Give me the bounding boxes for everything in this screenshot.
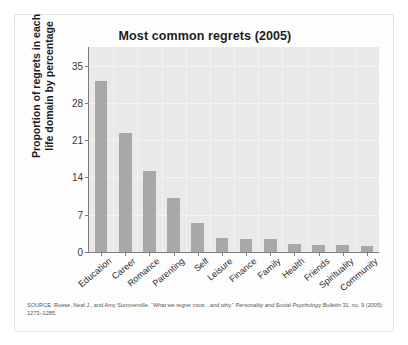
- x-tick-mark-self: [198, 253, 199, 256]
- bar-friends: [312, 245, 325, 252]
- x-axis-line: [88, 252, 379, 253]
- bar-education: [95, 81, 108, 252]
- y-axis-title: Proportion of regrets in each life domai…: [30, 0, 56, 176]
- y-tick-label-0: 0: [61, 247, 83, 258]
- x-tick-mark-parenting: [174, 253, 175, 256]
- chart-card: Most common regrets (2005) 0714212835 Pr…: [14, 14, 394, 332]
- bar-health: [288, 244, 301, 252]
- chart-figure: Most common regrets (2005) 0714212835 Pr…: [0, 0, 408, 345]
- bar-spirituality: [336, 245, 349, 252]
- chart-title: Most common regrets (2005): [15, 29, 395, 43]
- y-tick-mark-35: [85, 66, 88, 67]
- x-tick-label-family: Family: [256, 256, 283, 281]
- y-tick-label-21: 21: [61, 135, 83, 146]
- bar-career: [119, 133, 132, 252]
- y-tick-mark-28: [85, 103, 88, 104]
- x-tick-mark-health: [294, 253, 295, 256]
- x-tick-mark-career: [125, 253, 126, 256]
- source-note: SOURCE: Roese, Neal J., and Amy Summervi…: [27, 301, 385, 317]
- y-axis-title-line-2: life domain by percentage: [43, 0, 56, 176]
- x-tick-mark-friends: [319, 253, 320, 256]
- bar-romance: [143, 171, 156, 252]
- y-tick-mark-21: [85, 140, 88, 141]
- y-tick-label-35: 35: [61, 60, 83, 71]
- x-tick-mark-education: [101, 253, 102, 256]
- bar-series: [89, 47, 379, 252]
- bar-family: [264, 239, 277, 252]
- x-tick-label-education: Education: [76, 256, 113, 289]
- y-tick-mark-7: [85, 215, 88, 216]
- y-tick-label-28: 28: [61, 97, 83, 108]
- y-tick-label-7: 7: [61, 209, 83, 220]
- y-tick-label-14: 14: [61, 172, 83, 183]
- bar-finance: [240, 239, 253, 252]
- x-tick-mark-spirituality: [343, 253, 344, 256]
- bar-parenting: [167, 198, 180, 252]
- y-axis-line: [88, 47, 89, 253]
- y-tick-mark-0: [85, 252, 88, 253]
- x-tick-mark-finance: [246, 253, 247, 256]
- y-axis-tick-labels: 0714212835: [59, 47, 83, 252]
- x-tick-mark-family: [270, 253, 271, 256]
- bar-leisure: [216, 238, 229, 252]
- source-prefix: SOURCE: Roese, Neal J., and Amy Summervi…: [27, 302, 235, 308]
- x-tick-mark-community: [367, 253, 368, 256]
- y-tick-mark-14: [85, 177, 88, 178]
- y-axis-title-line-1: Proportion of regrets in each: [30, 0, 43, 176]
- x-tick-mark-leisure: [222, 253, 223, 256]
- x-tick-label-self: Self: [192, 256, 210, 274]
- bar-self: [191, 223, 204, 252]
- x-tick-mark-romance: [149, 253, 150, 256]
- plot-area: [89, 47, 379, 252]
- source-journal: Personality and Social Psychology Bullet…: [235, 302, 340, 308]
